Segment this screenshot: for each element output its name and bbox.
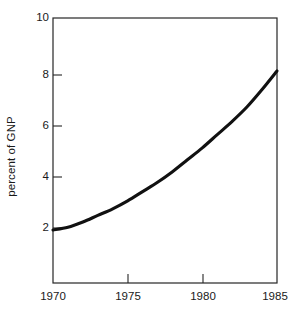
plot-frame <box>53 18 277 283</box>
plot-area <box>0 0 296 313</box>
data-curve-percent-of-gnp <box>53 71 277 230</box>
chart-container: percent of GNP 10 8 6 4 2 1970 1975 1980… <box>0 0 296 313</box>
